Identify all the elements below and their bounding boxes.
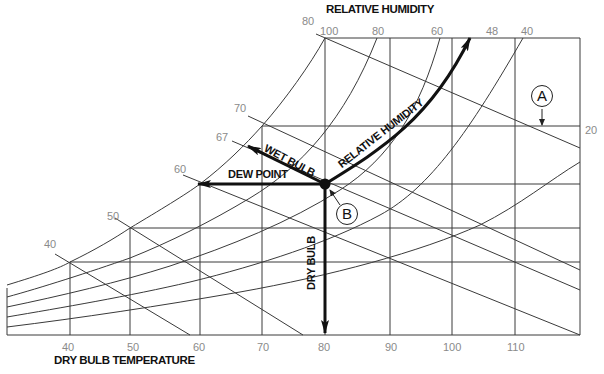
rh-label: 60 xyxy=(431,25,443,37)
callout-a: A xyxy=(531,85,553,107)
saturation-label: 70 xyxy=(234,102,246,114)
x-axis-title: DRY BULB TEMPERATURE xyxy=(54,354,195,366)
x-tick: 70 xyxy=(257,341,269,353)
state-point-dot xyxy=(320,179,331,190)
rh-label: 40 xyxy=(521,25,533,37)
saturation-label: 80 xyxy=(302,15,314,27)
x-tick: 60 xyxy=(193,341,205,353)
top-title: RELATIVE HUMIDITY xyxy=(326,3,434,15)
saturation-label: 67 xyxy=(216,131,228,143)
x-tick: 50 xyxy=(127,341,139,353)
dry-bulb-label: DRY BULB xyxy=(305,236,317,290)
state-point-arrows xyxy=(198,38,470,333)
x-tick: 90 xyxy=(385,341,397,353)
dry-bulb-gridlines xyxy=(70,38,515,335)
rh-label: 80 xyxy=(372,25,384,37)
x-tick: 100 xyxy=(443,341,461,353)
x-tick: 80 xyxy=(318,341,330,353)
saturation-label: 60 xyxy=(174,163,186,175)
dew-point-label: DEW POINT xyxy=(228,168,288,180)
saturation-label: 50 xyxy=(107,210,119,222)
x-tick: 110 xyxy=(507,341,525,353)
callout-b-leader xyxy=(330,190,340,205)
x-tick: 40 xyxy=(62,341,74,353)
saturation-label: 40 xyxy=(44,238,56,250)
rh-label: 48 xyxy=(486,25,498,37)
callout-b: B xyxy=(336,203,358,225)
psychrometric-chart xyxy=(0,0,604,374)
chart-frame xyxy=(7,38,580,335)
rh-label: 20 xyxy=(585,124,597,136)
rh-label: 100 xyxy=(320,25,338,37)
